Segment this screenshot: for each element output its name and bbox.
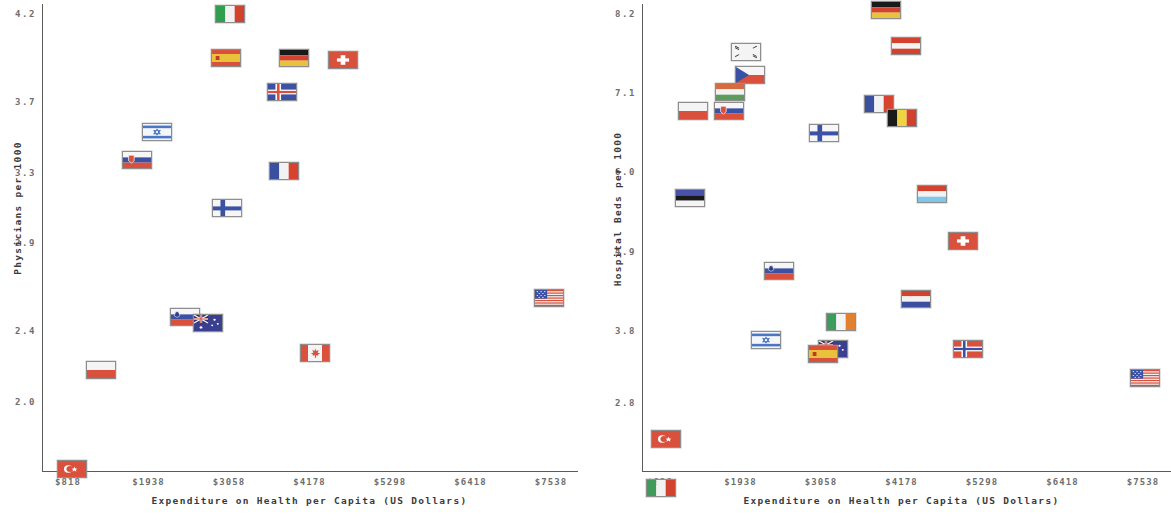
data-point-flag-tr[interactable] — [57, 460, 87, 478]
data-point-flag-ie[interactable] — [826, 313, 856, 331]
x-axis-tick-label: $3058 — [805, 477, 838, 487]
data-point-flag-tr[interactable] — [651, 430, 681, 448]
y-axis-title: Hospital Beds per 1000 — [612, 131, 623, 285]
data-point-flag-pl[interactable] — [86, 361, 116, 379]
data-point-flag-is[interactable] — [267, 83, 297, 101]
data-point-flag-us[interactable] — [534, 289, 564, 307]
y-axis-tick-label: 4.2 — [0, 9, 36, 19]
y-axis-tick-label: 2.8 — [600, 398, 636, 408]
data-point-flag-si[interactable] — [764, 262, 794, 280]
x-axis-tick-label: $6418 — [454, 477, 487, 487]
data-point-flag-it[interactable] — [215, 5, 245, 23]
data-point-flag-fi[interactable] — [212, 199, 242, 217]
data-point-flag-lu[interactable] — [917, 185, 947, 203]
x-axis-tick-label: $4178 — [293, 477, 326, 487]
data-point-flag-es[interactable] — [211, 49, 241, 67]
data-point-flag-mx[interactable] — [646, 479, 676, 497]
y-axis-tick-label: 2.0 — [0, 397, 36, 407]
data-point-flag-ee[interactable] — [675, 189, 705, 207]
data-point-flag-ch[interactable] — [328, 51, 358, 69]
data-point-flag-fr[interactable] — [269, 162, 299, 180]
x-axis-tick-label: $3058 — [213, 477, 246, 487]
y-axis-tick-label: 7.1 — [600, 88, 636, 98]
y-axis-line — [42, 4, 43, 471]
plot-area-hospital-beds: 8.27.16.04.93.82.8$818$1938$3058$4178$52… — [586, 0, 1171, 522]
y-axis-tick-label: 3.8 — [600, 326, 636, 336]
chart-panel-hospital-beds: 8.27.16.04.93.82.8$818$1938$3058$4178$52… — [586, 0, 1171, 522]
x-axis-line — [42, 471, 578, 472]
chart-panel-physicians: 4.23.73.32.92.42.0$818$1938$3058$4178$52… — [0, 0, 585, 522]
x-axis-tick-label: $5298 — [374, 477, 407, 487]
data-point-flag-es[interactable] — [808, 345, 838, 363]
x-axis-tick-label: $5298 — [966, 477, 999, 487]
data-point-flag-pl[interactable] — [678, 102, 708, 120]
data-point-flag-de[interactable] — [279, 49, 309, 67]
x-axis-tick-label: $1938 — [132, 477, 165, 487]
data-point-flag-fi[interactable] — [809, 124, 839, 142]
data-point-flag-nl[interactable] — [901, 290, 931, 308]
data-point-flag-no[interactable] — [953, 340, 983, 358]
x-axis-title: Expenditure on Health per Capita (US Dol… — [152, 495, 468, 506]
y-axis-tick-label: 8.2 — [600, 9, 636, 19]
data-point-flag-de[interactable] — [871, 1, 901, 19]
x-axis-tick-label: $6418 — [1046, 477, 1079, 487]
y-axis-title: Physicians per 1000 — [12, 141, 23, 274]
data-point-flag-il[interactable] — [751, 331, 781, 349]
data-point-flag-cz[interactable] — [735, 66, 765, 84]
x-axis-title: Expenditure on Health per Capita (US Dol… — [744, 495, 1060, 506]
x-axis-tick-label: $7538 — [1127, 477, 1160, 487]
data-point-flag-ca[interactable] — [300, 344, 330, 362]
data-point-flag-be[interactable] — [887, 109, 917, 127]
data-point-flag-hu[interactable] — [715, 83, 745, 101]
data-point-flag-sk[interactable] — [714, 102, 744, 120]
x-axis-tick-label: $1938 — [724, 477, 757, 487]
plot-area-physicians: 4.23.73.32.92.42.0$818$1938$3058$4178$52… — [0, 0, 585, 522]
y-axis-tick-label: 2.4 — [0, 326, 36, 336]
data-point-flag-au[interactable] — [193, 314, 223, 332]
x-axis-tick-label: $818 — [55, 477, 81, 487]
data-point-flag-sk[interactable] — [122, 151, 152, 169]
data-point-flag-kr[interactable] — [731, 43, 761, 61]
data-point-flag-ch[interactable] — [948, 232, 978, 250]
y-axis-line — [642, 4, 643, 471]
x-axis-tick-label: $4178 — [885, 477, 918, 487]
x-axis-line — [642, 471, 1171, 472]
y-axis-tick-label: 3.7 — [0, 97, 36, 107]
data-point-flag-at[interactable] — [891, 37, 921, 55]
x-axis-tick-label: $7538 — [535, 477, 568, 487]
data-point-flag-il[interactable] — [142, 123, 172, 141]
data-point-flag-us[interactable] — [1130, 369, 1160, 387]
